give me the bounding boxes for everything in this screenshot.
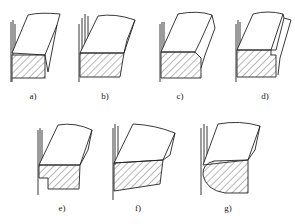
panel-a — [11, 13, 60, 82]
label-e: e) — [59, 203, 66, 213]
cross-sections-diagram — [0, 0, 295, 224]
panel-f — [113, 124, 175, 200]
label-c: c) — [177, 91, 184, 101]
label-d: d) — [261, 91, 269, 101]
panel-d — [236, 12, 291, 82]
label-b: b) — [101, 91, 109, 101]
label-a: a) — [30, 91, 37, 101]
label-f: f) — [135, 203, 141, 213]
panel-b — [79, 14, 135, 82]
label-g: g) — [224, 203, 232, 213]
panel-c — [160, 12, 215, 82]
panel-e — [38, 124, 92, 195]
panel-g — [201, 122, 260, 195]
